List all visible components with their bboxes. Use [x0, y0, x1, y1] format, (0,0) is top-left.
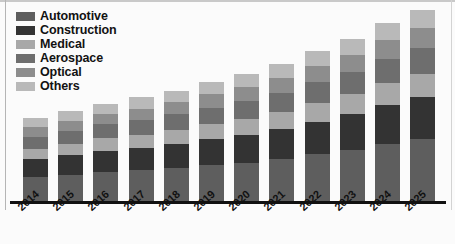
bar-segment[interactable]	[305, 122, 330, 155]
stacked-bar-chart: AutomotiveConstructionMedicalAerospaceOp…	[0, 0, 455, 244]
bar-segment[interactable]	[305, 82, 330, 103]
bar-segment[interactable]	[199, 108, 224, 125]
bar-column[interactable]	[164, 91, 189, 201]
legend-item[interactable]: Automotive	[16, 9, 117, 23]
legend-item[interactable]: Medical	[16, 37, 117, 51]
legend-swatch-icon	[16, 26, 35, 35]
legend-item-label: Automotive	[40, 10, 108, 23]
bar-segment[interactable]	[234, 119, 259, 135]
bar-segment[interactable]	[269, 64, 294, 78]
bar-segment[interactable]	[58, 121, 83, 131]
bar-column[interactable]	[269, 64, 294, 201]
bar-segment[interactable]	[164, 102, 189, 114]
bar-column[interactable]	[410, 10, 435, 201]
bar-column[interactable]	[93, 104, 118, 201]
legend-item-label: Medical	[40, 38, 85, 51]
legend-swatch-icon	[16, 82, 35, 91]
bar-segment[interactable]	[269, 93, 294, 113]
bar-segment[interactable]	[410, 74, 435, 97]
bar-segment[interactable]	[410, 97, 435, 139]
bar-segment[interactable]	[129, 97, 154, 108]
bar-segment[interactable]	[129, 120, 154, 135]
bar-segment[interactable]	[340, 94, 365, 114]
legend-item-label: Optical	[40, 66, 82, 79]
bar-segment[interactable]	[93, 114, 118, 124]
bar-segment[interactable]	[234, 101, 259, 119]
bar-segment[interactable]	[269, 78, 294, 93]
legend-swatch-icon	[16, 54, 35, 63]
bar-segment[interactable]	[305, 51, 330, 66]
bar-segment[interactable]	[234, 135, 259, 163]
x-axis-labels: 2014201520162017201820192020202120222023…	[0, 204, 455, 244]
bar-segment[interactable]	[340, 114, 365, 150]
bar-segment[interactable]	[58, 144, 83, 155]
bar-segment[interactable]	[269, 112, 294, 129]
legend-swatch-icon	[16, 12, 35, 21]
bar-segment[interactable]	[340, 72, 365, 94]
bar-segment[interactable]	[129, 148, 154, 170]
bar-segment[interactable]	[58, 155, 83, 175]
bar-segment[interactable]	[375, 83, 400, 105]
bar-segment[interactable]	[129, 135, 154, 148]
bar-segment[interactable]	[199, 94, 224, 107]
bar-segment[interactable]	[234, 87, 259, 101]
bar-segment[interactable]	[269, 129, 294, 159]
bar-segment[interactable]	[164, 144, 189, 168]
bar-segment[interactable]	[23, 118, 48, 127]
bar-column[interactable]	[305, 51, 330, 201]
bar-segment[interactable]	[375, 59, 400, 83]
bar-segment[interactable]	[199, 82, 224, 94]
bar-segment[interactable]	[410, 28, 435, 48]
legend-swatch-icon	[16, 68, 35, 77]
bar-segment[interactable]	[164, 114, 189, 130]
bar-column[interactable]	[234, 74, 259, 201]
bar-segment[interactable]	[23, 159, 48, 177]
bar-segment[interactable]	[23, 127, 48, 136]
bar-segment[interactable]	[58, 131, 83, 144]
bar-segment[interactable]	[23, 149, 48, 159]
bar-segment[interactable]	[23, 137, 48, 149]
bar-segment[interactable]	[93, 104, 118, 114]
bar-segment[interactable]	[164, 130, 189, 144]
bar-segment[interactable]	[93, 138, 118, 150]
legend-item-label: Construction	[40, 24, 117, 37]
legend-item-label: Others	[40, 80, 80, 93]
bar-segment[interactable]	[410, 10, 435, 28]
chart-legend: AutomotiveConstructionMedicalAerospaceOp…	[16, 9, 117, 93]
bar-segment[interactable]	[375, 40, 400, 59]
bar-column[interactable]	[23, 118, 48, 201]
bar-segment[interactable]	[340, 55, 365, 72]
legend-item[interactable]: Optical	[16, 65, 117, 79]
bar-segment[interactable]	[340, 39, 365, 55]
bar-segment[interactable]	[375, 105, 400, 144]
bar-column[interactable]	[129, 97, 154, 201]
legend-item-label: Aerospace	[40, 52, 103, 65]
bar-segment[interactable]	[234, 74, 259, 87]
bar-segment[interactable]	[164, 91, 189, 102]
bar-segment[interactable]	[199, 124, 224, 139]
legend-item[interactable]: Others	[16, 79, 117, 93]
legend-swatch-icon	[16, 40, 35, 49]
bar-segment[interactable]	[93, 124, 118, 138]
bar-segment[interactable]	[58, 111, 83, 120]
bar-segment[interactable]	[129, 109, 154, 120]
bar-segment[interactable]	[93, 151, 118, 173]
bar-segment[interactable]	[375, 23, 400, 40]
legend-item[interactable]: Aerospace	[16, 51, 117, 65]
bar-column[interactable]	[58, 111, 83, 201]
bar-column[interactable]	[340, 39, 365, 201]
bar-segment[interactable]	[410, 48, 435, 74]
bar-column[interactable]	[375, 23, 400, 201]
legend-item[interactable]: Construction	[16, 23, 117, 37]
bar-segment[interactable]	[199, 139, 224, 165]
bar-column[interactable]	[199, 82, 224, 201]
bar-segment[interactable]	[305, 103, 330, 122]
bar-segment[interactable]	[305, 66, 330, 82]
